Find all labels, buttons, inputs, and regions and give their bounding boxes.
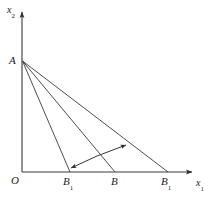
point-label-b1-right-text: B bbox=[161, 175, 168, 187]
rotation-double-arrow bbox=[71, 145, 126, 168]
figure-canvas: x2 x1 A O B1 B B1 bbox=[0, 0, 212, 204]
point-label-b1-left-text: B bbox=[63, 175, 70, 187]
x-axis-label-subscript: 1 bbox=[200, 185, 204, 193]
x-axis-label: x1 bbox=[196, 178, 204, 191]
point-label-b1-left: B1 bbox=[63, 176, 73, 190]
budget-line-outer bbox=[23, 61, 169, 172]
y-axis-label: x2 bbox=[7, 5, 15, 18]
point-label-b1-right-subscript: 1 bbox=[168, 184, 172, 192]
point-label-b1-right: B1 bbox=[161, 176, 171, 190]
point-label-a: A bbox=[9, 55, 16, 66]
point-label-b1-left-subscript: 1 bbox=[70, 184, 74, 192]
y-axis-label-subscript: 2 bbox=[11, 12, 15, 20]
origin-label: O bbox=[11, 175, 19, 186]
geometry-diagram bbox=[0, 0, 212, 204]
budget-line-middle bbox=[23, 61, 116, 172]
point-label-b-middle: B bbox=[111, 176, 118, 187]
budget-line-inner bbox=[23, 61, 71, 172]
